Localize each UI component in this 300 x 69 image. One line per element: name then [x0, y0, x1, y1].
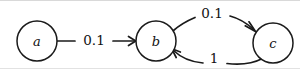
edge-label-c-to-b: 1: [210, 50, 219, 66]
node-a[interactable]: a: [17, 21, 57, 61]
edge-b-to-c-left-segment: [174, 18, 196, 31]
node-a-label: a: [33, 34, 41, 49]
graph-canvas: a b c 0.1 0.1 1: [0, 0, 300, 69]
node-c[interactable]: c: [253, 23, 293, 63]
node-b-label: b: [152, 34, 160, 49]
node-c-label: c: [269, 36, 277, 51]
edge-label-a-to-b: 0.1: [83, 32, 104, 48]
graph-figure: a b c 0.1 0.1 1: [0, 0, 300, 69]
edge-c-to-b-right-segment: [227, 59, 263, 65]
edge-c-to-b-left-segment: [174, 51, 204, 64]
edge-label-b-to-c: 0.1: [201, 5, 222, 21]
node-b[interactable]: b: [136, 21, 176, 61]
